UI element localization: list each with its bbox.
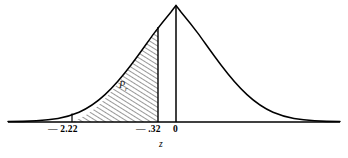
probability-subscript: r: [125, 85, 128, 92]
minus-sign-2: —: [136, 124, 146, 134]
tick-label-minus-0-32: —.32: [136, 124, 161, 134]
tick-value-2: .32: [148, 124, 160, 134]
probability-label: Pr: [119, 79, 128, 92]
shaded-probability-region: [60, 10, 170, 125]
tick-label-zero: 0: [173, 124, 178, 134]
tick-label-minus-2-22: —2.22: [48, 124, 78, 134]
tick-value-1: 2.22: [60, 124, 77, 134]
distribution-plot: [0, 0, 348, 158]
normal-curve: [8, 5, 340, 121]
normal-distribution-figure: Pr —2.22 —.32 0 z: [0, 0, 348, 158]
axis-label-z: z: [159, 139, 163, 149]
minus-sign-1: —: [48, 124, 58, 134]
